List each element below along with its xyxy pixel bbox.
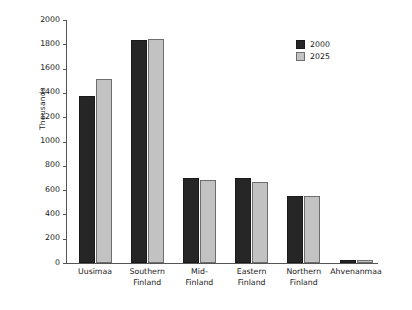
legend-label-2025: 2025 [310, 52, 330, 61]
bar-2000-3[interactable] [235, 178, 251, 263]
y-axis-tick-label: 1400 [40, 87, 60, 96]
bar-group [340, 20, 373, 263]
y-axis-tick-label: 0 [55, 258, 60, 267]
bar-2000-4[interactable] [287, 196, 303, 263]
bar-2025-0[interactable] [96, 79, 112, 263]
y-axis-tick-label: 800 [45, 160, 60, 169]
legend-swatch-icon-2000 [296, 40, 305, 49]
bar-chart: Thousands 200018001600140012001000800600… [0, 0, 412, 310]
bar-2025-2[interactable] [200, 180, 216, 263]
y-axis-tick-label: 1600 [40, 63, 60, 72]
bar-group [183, 20, 216, 263]
x-axis-line [66, 263, 378, 264]
bar-2000-0[interactable] [79, 96, 95, 263]
y-axis-tick-label: 400 [45, 209, 60, 218]
y-axis-tick-label: 1200 [40, 112, 60, 121]
legend-label-2000: 2000 [310, 40, 330, 49]
bar-2000-1[interactable] [131, 40, 147, 263]
legend-swatch-icon-2025 [296, 52, 305, 61]
legend-item-2000[interactable]: 2000 [296, 39, 330, 50]
y-axis-tick-label: 2000 [40, 15, 60, 24]
bar-2025-4[interactable] [304, 196, 320, 263]
bar-2000-2[interactable] [183, 178, 199, 263]
bar-group [131, 20, 164, 263]
bar-group [79, 20, 112, 263]
plot-area [67, 20, 378, 263]
bar-2025-3[interactable] [252, 182, 268, 263]
bar-2000-5[interactable] [340, 260, 356, 263]
bar-2025-5[interactable] [357, 260, 373, 263]
x-axis-label: Ahvenanmaa [316, 267, 396, 278]
y-axis-tick-label: 1800 [40, 39, 60, 48]
y-axis-tick-label: 1000 [40, 136, 60, 145]
bar-2025-1[interactable] [148, 39, 164, 263]
y-axis-tick-label: 600 [45, 185, 60, 194]
y-axis-tick-label: 200 [45, 233, 60, 242]
legend-item-2025[interactable]: 2025 [296, 51, 330, 62]
chart-legend: 2000 2025 [296, 39, 330, 63]
bar-group [235, 20, 268, 263]
